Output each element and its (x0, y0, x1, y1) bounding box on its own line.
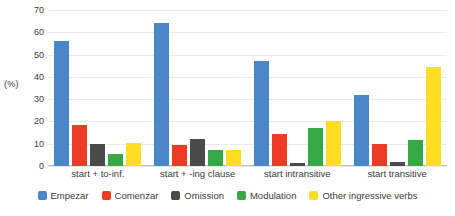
bar-slot (72, 10, 87, 166)
y-tick-label: 30 (34, 94, 44, 104)
y-axis-tick-labels: 010203040506070 (22, 10, 44, 166)
bar[interactable] (154, 23, 169, 166)
x-tick-label: start transitive (347, 168, 447, 179)
legend-swatch-icon (171, 191, 180, 200)
bar[interactable] (254, 61, 269, 166)
bar-group (148, 10, 248, 166)
bar-slot (90, 10, 105, 166)
bar-group (347, 10, 447, 166)
bar[interactable] (354, 95, 369, 166)
bar-slot (208, 10, 223, 166)
x-tick-label: start intransitive (248, 168, 348, 179)
bar-chart: (%) 010203040506070 start + to-inf.start… (0, 0, 455, 216)
bar-slot (372, 10, 387, 166)
bar-slot (390, 10, 405, 166)
bar[interactable] (390, 162, 405, 166)
plot-area (48, 10, 447, 166)
bar-group (248, 10, 348, 166)
legend-swatch-icon (309, 191, 318, 200)
bar-slot (108, 10, 123, 166)
bar-slot (408, 10, 423, 166)
legend: EmpezarComenzarOmissionModulationOther i… (0, 190, 455, 201)
bar-slot (272, 10, 287, 166)
legend-swatch-icon (102, 191, 111, 200)
legend-item[interactable]: Empezar (38, 190, 89, 201)
bar-slot (154, 10, 169, 166)
legend-item[interactable]: Comenzar (102, 190, 159, 201)
bar-slot (254, 10, 269, 166)
bar-slot (308, 10, 323, 166)
legend-item[interactable]: Modulation (237, 190, 296, 201)
y-tick-label: 40 (34, 72, 44, 82)
y-tick-label: 50 (34, 50, 44, 60)
bar[interactable] (172, 145, 187, 166)
bar-slot (172, 10, 187, 166)
bar[interactable] (72, 125, 87, 166)
gridline (48, 166, 447, 167)
legend-label: Omission (184, 190, 224, 201)
y-axis-title: (%) (4, 79, 19, 89)
bar-slot (126, 10, 141, 166)
legend-label: Modulation (250, 190, 296, 201)
bar-groups (48, 10, 447, 166)
bar-slot (426, 10, 441, 166)
y-tick-label: 70 (34, 5, 44, 15)
bar[interactable] (190, 139, 205, 166)
y-tick-label: 0 (39, 161, 44, 171)
legend-label: Other ingressive verbs (322, 190, 417, 201)
legend-label: Empezar (51, 190, 89, 201)
bar[interactable] (426, 67, 441, 166)
bar[interactable] (308, 128, 323, 166)
bar-slot (326, 10, 341, 166)
bar[interactable] (326, 121, 341, 166)
bar[interactable] (108, 154, 123, 166)
bar-slot (290, 10, 305, 166)
y-tick-label: 20 (34, 116, 44, 126)
bar[interactable] (372, 144, 387, 166)
legend-item[interactable]: Other ingressive verbs (309, 190, 417, 201)
bar-slot (190, 10, 205, 166)
y-tick-label: 60 (34, 27, 44, 37)
bar-slot (354, 10, 369, 166)
x-axis-tick-labels: start + to-inf.start + -ing clausestart … (48, 168, 447, 179)
legend-swatch-icon (237, 191, 246, 200)
legend-label: Comenzar (115, 190, 159, 201)
bar-slot (54, 10, 69, 166)
bar-slot (226, 10, 241, 166)
bar[interactable] (290, 163, 305, 166)
legend-swatch-icon (38, 191, 47, 200)
legend-item[interactable]: Omission (171, 190, 224, 201)
bar[interactable] (226, 150, 241, 166)
x-tick-label: start + -ing clause (148, 168, 248, 179)
y-tick-label: 10 (34, 139, 44, 149)
bar[interactable] (90, 144, 105, 166)
bar[interactable] (408, 140, 423, 166)
bar[interactable] (272, 134, 287, 166)
bar-group (48, 10, 148, 166)
bar[interactable] (126, 143, 141, 166)
bar[interactable] (54, 41, 69, 166)
x-tick-label: start + to-inf. (48, 168, 148, 179)
bar[interactable] (208, 150, 223, 166)
